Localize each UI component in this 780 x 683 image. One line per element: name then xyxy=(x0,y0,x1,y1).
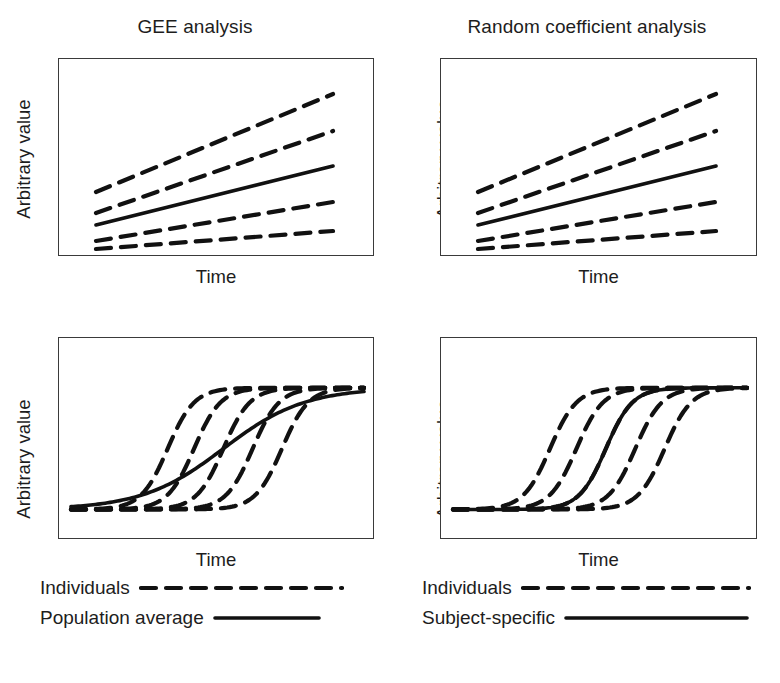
legend-left: Individuals Population average xyxy=(40,578,390,648)
figure-root: GEE analysis Arbitrary value Time Random… xyxy=(0,0,780,683)
individual-curve-2 xyxy=(71,388,364,510)
legend-swatch-solid xyxy=(213,613,321,623)
legend-label-individuals: Individuals xyxy=(40,578,130,597)
legend-right: Individuals Subject-specific xyxy=(422,578,772,648)
plot-curves-random-coefficient-sigmoid xyxy=(441,338,755,537)
plot-area-random-coefficient-linear xyxy=(440,58,757,256)
legend-row-individuals: Individuals xyxy=(422,578,751,597)
plot-area-random-coefficient-sigmoid xyxy=(440,337,757,539)
panel-title-random-coefficient-linear: Random coefficient analysis xyxy=(402,16,772,38)
y-axis-label-gee-sigmoid: Arbitrary value xyxy=(13,379,35,539)
legend-label-population-average: Population average xyxy=(40,608,204,627)
legend-label-individuals: Individuals xyxy=(422,578,512,597)
panel-gee-linear: GEE analysis Arbitrary value Time xyxy=(0,0,390,300)
average-line xyxy=(478,166,716,225)
x-axis-label-gee-linear: Time xyxy=(58,266,374,288)
legend-swatch-dashed xyxy=(521,583,751,593)
x-axis-label-random-coefficient-sigmoid: Time xyxy=(440,549,757,571)
legend-row-individuals: Individuals xyxy=(40,578,344,597)
legend-row-population-average: Population average xyxy=(40,608,321,627)
panel-gee-sigmoid: Arbitrary value Time Individuals Populat… xyxy=(0,320,390,683)
plot-area-gee-linear xyxy=(58,58,374,256)
legend-swatch-solid xyxy=(564,613,749,623)
average-line xyxy=(96,166,333,225)
panel-random-coefficient-sigmoid: Arbitrary value Time Individuals Subject… xyxy=(382,320,780,683)
individual-curve-2 xyxy=(453,388,747,510)
legend-label-subject-specific: Subject-specific xyxy=(422,608,555,627)
panel-random-coefficient-linear: Random coefficient analysis Arbitrary va… xyxy=(382,0,780,300)
panel-title-gee-linear: GEE analysis xyxy=(0,16,390,38)
x-axis-label-random-coefficient-linear: Time xyxy=(440,266,757,288)
plot-lines-gee-linear xyxy=(59,59,372,254)
plot-curves-gee-sigmoid xyxy=(59,338,372,537)
y-axis-label-gee-linear: Arbitrary value xyxy=(13,79,35,239)
plot-area-gee-sigmoid xyxy=(58,337,374,539)
legend-row-subject-specific: Subject-specific xyxy=(422,608,749,627)
plot-lines-random-coefficient-linear xyxy=(441,59,755,254)
legend-swatch-dashed xyxy=(139,583,344,593)
x-axis-label-gee-sigmoid: Time xyxy=(58,549,374,571)
